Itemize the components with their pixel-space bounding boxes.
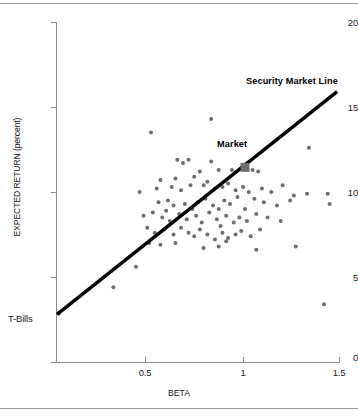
scatter-point (256, 170, 260, 174)
scatter-point (155, 187, 159, 191)
scatter-point (217, 168, 221, 172)
scatter-point (111, 285, 115, 289)
scatter-point (188, 183, 192, 187)
scatter-point (198, 170, 202, 174)
scatter-point (222, 199, 226, 203)
scatter-point (224, 214, 228, 218)
scatter-point (326, 192, 330, 196)
scatter-point (228, 202, 232, 206)
scatter-point (164, 209, 168, 213)
scatter-point (160, 216, 164, 220)
chart-page: 20 15 10 5 0 0.5 1 1.5 EXPECTED RETURN (… (0, 0, 358, 419)
scatter-point (149, 131, 153, 135)
scatter-point (224, 239, 228, 243)
scatter-point (183, 202, 187, 206)
scatter-point (279, 219, 283, 223)
scatter-point (294, 244, 298, 248)
scatter-point (207, 210, 211, 214)
scatter-point (269, 190, 273, 194)
scatter-point (241, 185, 245, 189)
scatter-point (230, 168, 234, 172)
scatter-point (166, 199, 170, 203)
scatter-point (232, 221, 236, 225)
security-market-line (57, 92, 337, 315)
scatter-point (187, 231, 191, 235)
scatter-point (275, 204, 279, 208)
scatter-point (157, 200, 161, 204)
scatter-point (266, 216, 270, 220)
scatter-point (172, 204, 176, 208)
scatter-point (215, 217, 219, 221)
scatter-point (247, 190, 251, 194)
scatter-point (328, 202, 332, 206)
scatter-point (307, 146, 311, 150)
scatter-point (175, 158, 179, 162)
scatter-point (217, 207, 221, 211)
chart-canvas (0, 0, 358, 419)
scatter-point (292, 193, 296, 197)
scatter-point (202, 246, 206, 250)
scatter-point (179, 188, 183, 192)
scatter-point (234, 233, 238, 237)
scatter-point (252, 197, 256, 201)
scatter-point (158, 178, 162, 182)
scatter-point (205, 233, 209, 237)
scatter-point (200, 221, 204, 225)
scatter-point (185, 217, 189, 221)
scatter-point (187, 158, 191, 162)
scatter-point (245, 219, 249, 223)
scatter-point (172, 233, 176, 237)
scatter-point (192, 234, 196, 238)
scatter-point (138, 190, 142, 194)
scatter-point (220, 231, 224, 235)
scatter-point (194, 214, 198, 218)
scatter-point (249, 234, 253, 238)
scatter-point (226, 182, 230, 186)
scatter-point (202, 183, 206, 187)
scatter-point (134, 265, 138, 269)
scatter-point (251, 168, 255, 172)
scatter-point (173, 176, 177, 180)
scatter-point (235, 195, 239, 199)
scatter-point (173, 241, 177, 245)
scatter-point (234, 188, 238, 192)
scatter-point (254, 248, 258, 252)
scatter-point (209, 159, 213, 163)
scatter-point (209, 117, 213, 121)
scatter-point (170, 185, 174, 189)
scatter-point (213, 238, 217, 242)
scatter-point (254, 212, 258, 216)
scatter-point (192, 175, 196, 179)
scatter-point (226, 236, 230, 240)
scatter-point (219, 224, 223, 228)
scatter-point (281, 183, 285, 187)
scatter-point (243, 207, 247, 211)
scatter-point (260, 187, 264, 191)
scatter-point (258, 227, 262, 231)
scatter-point (262, 200, 266, 204)
scatter-point (179, 226, 183, 230)
scatter-point (158, 243, 162, 247)
scatter-point (151, 210, 155, 214)
scatter-point (145, 226, 149, 230)
scatter-point (322, 302, 326, 306)
scatter-point (141, 214, 145, 218)
scatter-point (217, 244, 221, 248)
scatter-point (239, 229, 243, 233)
scatter-point (198, 227, 202, 231)
scatter-point (305, 192, 309, 196)
scatter-point (288, 199, 292, 203)
scatter-point (237, 216, 241, 220)
scatter-point (205, 180, 209, 184)
scatter-points (57, 117, 332, 316)
scatter-point (211, 204, 215, 208)
scatter-point (181, 161, 185, 165)
market-portfolio-marker (241, 163, 250, 172)
